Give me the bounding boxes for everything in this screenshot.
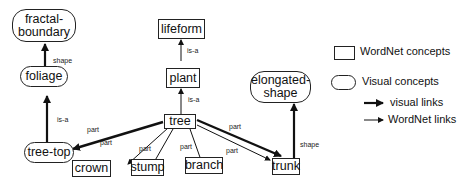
legend-visual-concepts: Visual concepts [362,75,439,87]
node-plant: plant [166,68,200,88]
node-foliage: foliage [20,66,68,87]
node-label: tree [169,115,191,128]
edge-label-is-a: is-a [187,47,198,54]
legend-wordnet-concepts: WordNet concepts [360,45,450,57]
node-label: plant [169,72,196,85]
node-tree-top: tree-top [24,142,74,163]
node-label: crown [75,162,108,175]
node-trunk: trunk [272,158,300,175]
node-fractal-boundary: fractal- boundary [12,9,76,42]
node-label: branch [185,159,223,172]
node-label: boundary [18,26,70,39]
node-label: shape [263,87,297,100]
edge-label-part: part [87,126,99,133]
edge-label-shape: shape [53,57,72,64]
node-crown: crown [72,160,111,177]
node-label: tree-top [27,146,70,159]
node-label: fractal- [25,13,63,26]
node-stump: stump [131,159,164,176]
node-label: trunk [272,160,300,173]
node-branch: branch [185,157,223,174]
node-tree: tree [164,114,196,129]
node-label: stump [130,161,164,174]
legend-visual-oval-icon [331,75,356,90]
node-label: lifeform [161,23,202,36]
node-label: foliage [26,70,63,83]
edge-label-part: part [180,143,192,150]
concept-diagram: fractal- boundary foliage tree-top lifef… [0,0,458,191]
edge-label-part: part [100,139,112,146]
legend-wordnet-box-icon [334,46,355,60]
edge-label-is-a: is-a [57,116,68,123]
edge-label-is-a: is-a [188,96,199,103]
edge-label-part: part [226,147,238,154]
legend-wordnet-links: WordNet links [388,113,456,125]
edge-tree-trunk-wordnet [197,125,270,160]
edge-label-part: part [229,123,241,130]
edge-label-shape: shape [300,141,319,148]
node-lifeform: lifeform [158,19,205,39]
node-elongated-shape: elongated- shape [250,71,311,103]
legend-visual-links: visual links [390,96,443,108]
edge-label-part: part [139,145,151,152]
